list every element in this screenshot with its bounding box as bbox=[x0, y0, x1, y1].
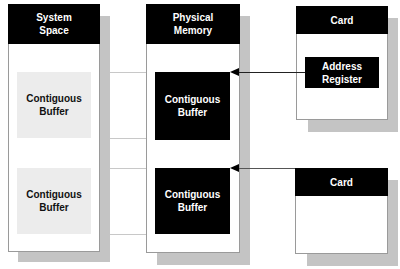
address-register-line2: Register bbox=[322, 73, 362, 86]
buffer-label-line2: Buffer bbox=[165, 106, 221, 119]
buffer-label-line2: Buffer bbox=[26, 201, 82, 214]
address-register-line1: Address bbox=[322, 60, 362, 73]
physical-contiguous-buffer-2: Contiguous Buffer bbox=[155, 168, 230, 234]
buffer-label-line1: Contiguous bbox=[26, 188, 82, 201]
system-contiguous-buffer-2: Contiguous Buffer bbox=[17, 168, 91, 234]
card-1-header: Card bbox=[296, 6, 388, 34]
system-space-header: System Space bbox=[8, 4, 100, 44]
arrow-line-register-to-buffer-1 bbox=[236, 72, 305, 73]
buffer-label-line2: Buffer bbox=[26, 105, 82, 118]
system-contiguous-buffer-1: Contiguous Buffer bbox=[17, 72, 91, 138]
physical-memory-header: Physical Memory bbox=[146, 4, 240, 44]
buffer-label-line1: Contiguous bbox=[165, 188, 221, 201]
system-space-title-line2: Space bbox=[36, 24, 72, 37]
card-2-header: Card bbox=[295, 168, 388, 196]
system-space-title-line1: System bbox=[36, 11, 72, 24]
address-register: Address Register bbox=[305, 57, 379, 88]
buffer-label-line1: Contiguous bbox=[26, 92, 82, 105]
physical-memory-title-line2: Memory bbox=[173, 24, 214, 37]
arrow-head-left-icon bbox=[230, 68, 239, 76]
physical-memory-title-line1: Physical bbox=[173, 11, 214, 24]
arrow-head-left-icon bbox=[230, 164, 239, 172]
arrow-line-card2-to-buffer-2 bbox=[236, 168, 295, 169]
physical-contiguous-buffer-1: Contiguous Buffer bbox=[155, 72, 230, 140]
buffer-label-line1: Contiguous bbox=[165, 93, 221, 106]
buffer-label-line2: Buffer bbox=[165, 201, 221, 214]
